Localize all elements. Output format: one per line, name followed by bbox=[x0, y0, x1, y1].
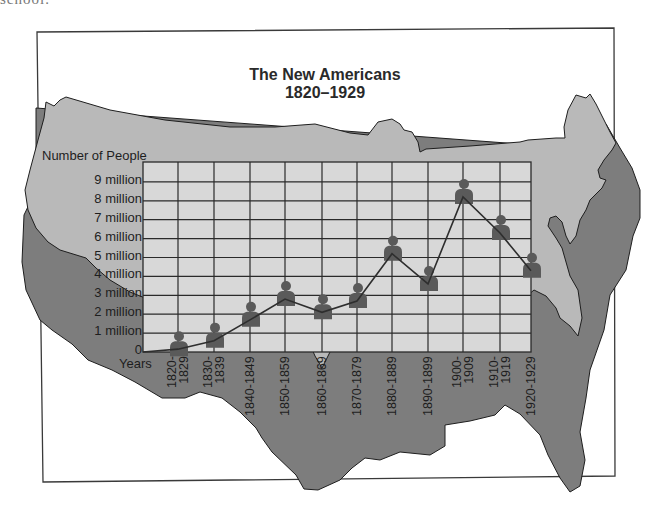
x-tick: 1820- 1829 bbox=[166, 356, 190, 388]
chart-subtitle: 1820–1929 bbox=[0, 84, 650, 102]
y-tick: 5 million bbox=[94, 248, 142, 263]
y-tick: 6 million bbox=[94, 229, 142, 244]
x-tick: 1880-1889 bbox=[386, 356, 398, 416]
x-tick: 1870-1879 bbox=[351, 356, 363, 416]
x-tick: 1890-1899 bbox=[422, 356, 434, 416]
y-tick: 8 million bbox=[94, 191, 142, 206]
y-tick: 1 million bbox=[94, 323, 142, 338]
x-tick: 1920-1929 bbox=[525, 356, 537, 416]
y-axis-label: Number of People bbox=[42, 148, 147, 163]
x-tick: 1840-1849 bbox=[244, 356, 256, 416]
y-tick: 3 million bbox=[94, 285, 142, 300]
y-tick: 4 million bbox=[94, 266, 142, 281]
y-tick: 7 million bbox=[94, 210, 142, 225]
x-tick: 1830- 1839 bbox=[202, 356, 226, 388]
chart-title: The New Americans bbox=[0, 66, 650, 84]
x-tick: 1860-1869 bbox=[316, 356, 328, 416]
x-tick: 1910- 1919 bbox=[488, 356, 512, 388]
x-tick: 1900- 1909 bbox=[451, 356, 475, 388]
y-tick: 9 million bbox=[94, 172, 142, 187]
y-tick: 0 bbox=[135, 342, 142, 357]
y-tick: 2 million bbox=[94, 304, 142, 319]
x-tick: 1850-1859 bbox=[279, 356, 291, 416]
x-axis-label: Years bbox=[119, 356, 152, 371]
